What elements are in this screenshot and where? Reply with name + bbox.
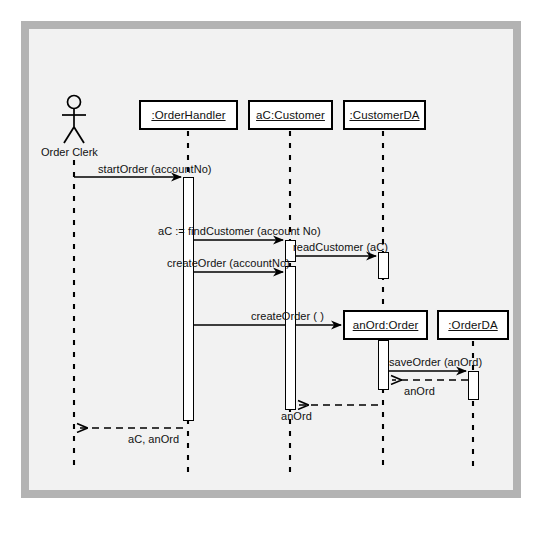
lifeline-box-customer[interactable]: aC:Customer (248, 100, 333, 130)
message-label-m1: startOrder (accountNo) (98, 163, 212, 175)
activation-bar-order (378, 340, 389, 390)
stick-figure-actor-icon (62, 96, 86, 144)
message-label-m7: anOrd (404, 385, 435, 397)
message-label-m4: createOrder (accountNo) (167, 257, 290, 269)
actor-label: Order Clerk (41, 146, 98, 158)
message-label-m8: anOrd (281, 410, 312, 422)
lifeline-dashes (74, 131, 473, 472)
message-label-m9: aC, anOrd (128, 433, 179, 445)
message-label-m3: readCustomer (aC) (293, 241, 388, 253)
lifeline-box-orderhandler[interactable]: :OrderHandler (139, 100, 238, 130)
lifeline-box-order[interactable]: anOrd:Order (343, 310, 428, 340)
activation-bar-customer-create (285, 266, 296, 410)
message-label-m2: aC := findCustomer (account No) (158, 225, 321, 237)
lifeline-label-orderhandler: :OrderHandler (151, 109, 225, 121)
activation-bar-orderhandler (183, 177, 194, 421)
lifeline-label-orderda: :OrderDA (448, 319, 497, 331)
message-arrows (74, 177, 466, 371)
lifeline-box-customerda[interactable]: :CustomerDA (343, 100, 426, 130)
lifeline-label-order: anOrd:Order (353, 319, 419, 331)
lifeline-label-customerda: :CustomerDA (349, 109, 419, 121)
screenshot-root: :OrderHandler aC:Customer :CustomerDA an… (0, 0, 545, 537)
lifeline-label-customer: aC:Customer (256, 109, 325, 121)
activation-bar-orderda (468, 371, 479, 400)
lifeline-box-orderda[interactable]: :OrderDA (437, 310, 509, 340)
message-label-m6: saveOrder (anOrd) (389, 356, 482, 368)
activation-bar-customerda (378, 252, 389, 279)
message-label-m5: createOrder ( ) (251, 310, 324, 322)
